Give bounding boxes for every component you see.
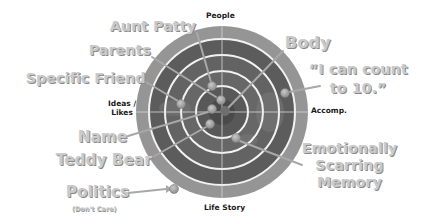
dot-politics[interactable] bbox=[170, 185, 179, 194]
axis-label-top: People bbox=[206, 11, 235, 20]
dot-count[interactable] bbox=[281, 89, 290, 98]
axis-label-left-line1: Ideas / bbox=[108, 99, 136, 108]
dot-specific-friend[interactable] bbox=[177, 100, 186, 109]
label-memory-line2: Scarring bbox=[302, 157, 397, 174]
label-specific-friend: Specific Friend bbox=[26, 70, 146, 86]
dot-memory[interactable] bbox=[232, 134, 241, 143]
dot-body[interactable] bbox=[221, 107, 230, 116]
label-aunt-patty: Aunt Patty bbox=[110, 18, 196, 34]
label-name: Name bbox=[78, 128, 127, 146]
label-teddy-bear: Teddy Bear bbox=[56, 151, 152, 169]
label-politics: Politics bbox=[66, 183, 129, 201]
label-count-line2: to 10.” bbox=[309, 79, 408, 98]
label-parents: Parents bbox=[89, 42, 151, 58]
axis-label-bottom: Life Story bbox=[204, 203, 245, 212]
label-body: Body bbox=[285, 33, 331, 52]
dot-parents[interactable] bbox=[217, 96, 226, 105]
label-memory-line3: Memory bbox=[302, 174, 397, 191]
label-count: “I can count to 10.” bbox=[309, 60, 408, 98]
dot-aunt-patty[interactable] bbox=[208, 82, 217, 91]
dot-name[interactable] bbox=[208, 105, 217, 114]
axis-label-left-line2: Likes bbox=[108, 108, 136, 117]
label-count-line1: “I can count bbox=[309, 60, 408, 79]
arrow-politics bbox=[128, 189, 166, 193]
label-memory: Emotionally Scarring Memory bbox=[302, 140, 397, 191]
label-politics-note: (Don't Care) bbox=[72, 205, 117, 213]
axis-label-left: Ideas / Likes bbox=[108, 99, 136, 117]
dot-teddy-bear[interactable] bbox=[206, 120, 215, 129]
label-memory-line1: Emotionally bbox=[302, 140, 397, 157]
axis-label-right: Accomp. bbox=[311, 106, 347, 115]
